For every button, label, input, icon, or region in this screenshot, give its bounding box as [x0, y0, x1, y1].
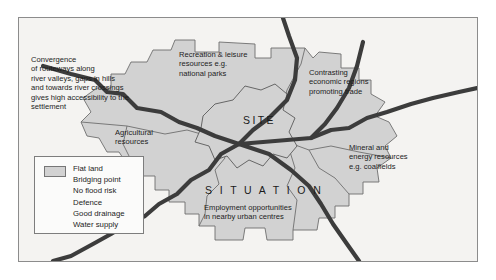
employment-note: Employment opportunities in nearby urban… — [204, 203, 292, 222]
legend-item: Bridging point — [73, 174, 125, 185]
legend-item: Good drainage — [73, 208, 125, 219]
legend-item: No flood risk — [73, 185, 125, 196]
map-frame: Convergence of routeways along river val… — [18, 17, 478, 262]
legend-flat-land-swatch — [44, 166, 66, 177]
situation-label: S I T U A T I O N — [205, 184, 323, 197]
legend-item: Flat land — [73, 163, 125, 174]
legend-item: Water supply — [73, 219, 125, 230]
agricultural-note: Agricultural resources — [115, 128, 153, 147]
mineral-energy-note: Mineral and energy resources e.g. coalfi… — [349, 143, 408, 171]
economic-regions-note: Contrasting economic regions promoting t… — [309, 68, 369, 96]
legend-item: Defence — [73, 197, 125, 208]
legend-items: Flat land Bridging point No flood risk D… — [73, 163, 125, 230]
convergence-note: Convergence of routeways along river val… — [31, 55, 129, 111]
legend: Flat land Bridging point No flood risk D… — [34, 156, 144, 234]
recreation-note: Recreation & leisure resources e.g. nati… — [179, 50, 247, 78]
site-label: SITE — [243, 114, 276, 127]
figure-canvas: Convergence of routeways along river val… — [0, 0, 496, 280]
